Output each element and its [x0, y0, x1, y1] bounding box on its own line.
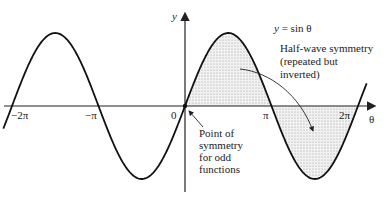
function-label: y = sin θ: [273, 22, 311, 34]
tick-label-2pi: 2π: [339, 109, 351, 121]
half-wave-annotation-line2: (repeated but: [280, 55, 338, 68]
symmetry-annotation-line3: for odd: [199, 151, 232, 163]
tick-label-pi: π: [263, 109, 269, 121]
sine-symmetry-diagram: y θ −2π −π 0 π 2π y = sin θ Half-wave sy…: [0, 0, 387, 197]
symmetry-annotation-line4: functions: [199, 163, 240, 175]
half-wave-annotation-line1: Half-wave symmetry: [280, 42, 374, 54]
y-axis-label: y: [171, 10, 177, 22]
tick-label-neg-2pi: −2π: [11, 109, 29, 121]
symmetry-arrow: [189, 111, 203, 127]
origin-point: [183, 104, 187, 108]
x-axis-label: θ: [369, 113, 374, 125]
half-wave-annotation-line3: inverted): [280, 68, 320, 81]
tick-label-neg-pi: −π: [85, 109, 97, 121]
symmetry-annotation-line1: Point of: [199, 127, 234, 139]
symmetry-annotation-line2: symmetry: [199, 139, 243, 151]
tick-label-zero: 0: [171, 109, 177, 121]
